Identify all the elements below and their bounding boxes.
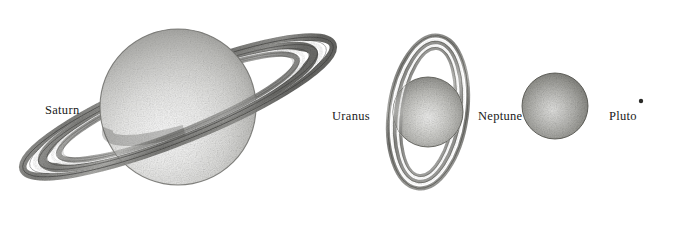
planet-label-uranus: Uranus <box>332 110 370 123</box>
planet-illustration-canvas: Saturn Uranus Neptune Pluto <box>0 0 680 232</box>
planet-label-pluto: Pluto <box>609 110 637 123</box>
uranus-group <box>379 30 478 193</box>
pluto-group <box>639 99 643 103</box>
neptune-group <box>522 73 588 139</box>
planet-label-saturn: Saturn <box>45 104 79 117</box>
pluto-globe <box>639 99 643 103</box>
planet-label-neptune: Neptune <box>478 110 522 123</box>
